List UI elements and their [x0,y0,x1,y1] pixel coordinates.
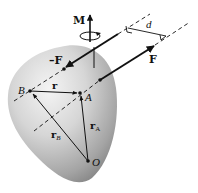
line-of-action-pos-ext [155,22,190,45]
couple-moment-diagram: d M –F F B A O r rA rB [0,0,198,193]
force-neg-label: –F [49,54,63,67]
point-b [28,89,32,93]
moment-label: M [73,14,85,27]
force-pos-label: F [149,53,157,66]
force-pos-point [98,78,102,82]
point-o [86,159,90,163]
vector-r-label: r [52,80,58,91]
point-o-label: O [92,156,100,168]
vector-rB-sub: B [56,134,61,142]
point-b-label: B [18,84,25,96]
point-a-label: A [84,91,92,103]
rigid-body [8,45,117,182]
distance-label: d [146,18,152,30]
vector-rA-sub: A [95,125,100,133]
force-pos-arrow [100,46,154,80]
force-neg-point [62,67,66,71]
point-a [78,91,82,95]
